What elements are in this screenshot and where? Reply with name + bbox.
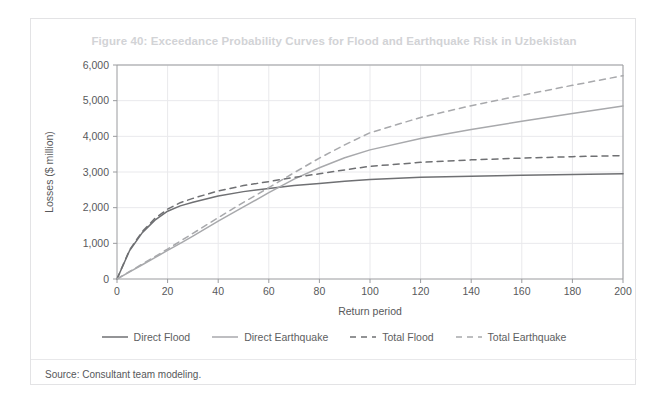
legend-swatch-total-earthquake [456, 333, 482, 341]
y-axis-tick-label: 6,000 [83, 59, 109, 71]
source-note: Source: Consultant team modeling. [45, 369, 201, 380]
legend-label-direct-earthquake: Direct Earthquake [244, 331, 328, 343]
y-axis-tick-label: 2,000 [83, 201, 109, 213]
x-axis-tick-label: 200 [614, 285, 632, 297]
y-axis-title: Losses ($ million) [43, 131, 55, 213]
figure-title: Figure 40: Exceedance Probability Curves… [31, 35, 637, 47]
legend-label-total-earthquake: Total Earthquake [488, 331, 567, 343]
y-axis-tick-label: 0 [103, 273, 109, 285]
legend-swatch-direct-earthquake [212, 333, 238, 341]
source-divider [31, 359, 637, 360]
y-axis-tick-label: 4,000 [83, 130, 109, 142]
legend-swatch-direct-flood [102, 333, 128, 341]
x-axis-tick-label: 180 [564, 285, 582, 297]
legend-item-total-earthquake: Total Earthquake [456, 331, 567, 343]
x-axis-tick-label: 20 [162, 285, 174, 297]
x-axis-tick-label: 80 [314, 285, 326, 297]
x-axis-title: Return period [338, 305, 402, 317]
legend-swatch-total-flood [350, 333, 376, 341]
x-axis-tick-label: 120 [412, 285, 430, 297]
figure-card: Figure 40: Exceedance Probability Curves… [30, 18, 636, 385]
legend-item-direct-flood: Direct Flood [102, 331, 191, 343]
legend-label-direct-flood: Direct Flood [134, 331, 191, 343]
exceedance-probability-chart: 01,0002,0003,0004,0005,0006,000020406080… [31, 57, 637, 327]
x-axis-tick-label: 0 [114, 285, 120, 297]
y-axis-tick-label: 5,000 [83, 94, 109, 106]
y-axis-tick-label: 1,000 [83, 237, 109, 249]
x-axis-tick-label: 140 [462, 285, 480, 297]
legend-item-direct-earthquake: Direct Earthquake [212, 331, 328, 343]
legend-item-total-flood: Total Flood [350, 331, 433, 343]
y-axis-tick-label: 3,000 [83, 166, 109, 178]
x-axis-tick-label: 40 [212, 285, 224, 297]
chart-legend: Direct Flood Direct Earthquake Total Flo… [31, 331, 637, 343]
legend-label-total-flood: Total Flood [382, 331, 433, 343]
chart-plot-area: 01,0002,0003,0004,0005,0006,000020406080… [31, 57, 637, 327]
x-axis-tick-label: 100 [361, 285, 379, 297]
x-axis-tick-label: 160 [513, 285, 531, 297]
x-axis-tick-label: 60 [263, 285, 275, 297]
